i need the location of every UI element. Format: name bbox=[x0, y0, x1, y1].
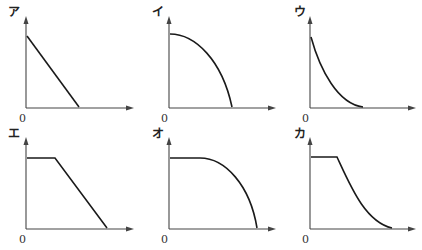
curve-e bbox=[27, 158, 107, 228]
graph-grid: ア 0 イ 0 ウ 0 エ 0 オ bbox=[0, 0, 422, 250]
origin-label-ka: 0 bbox=[302, 233, 309, 246]
x-axis-arrow-icon bbox=[268, 227, 276, 232]
panel-u: ウ 0 bbox=[294, 5, 416, 125]
y-axis-arrow-icon bbox=[167, 137, 172, 145]
x-axis-arrow-icon bbox=[126, 106, 134, 111]
panel-e: エ 0 bbox=[8, 127, 134, 246]
panel-i: イ 0 bbox=[152, 5, 276, 125]
curve-ka bbox=[311, 157, 392, 228]
y-axis-arrow-icon bbox=[167, 16, 172, 24]
y-axis-arrow-icon bbox=[308, 137, 313, 145]
panel-label-a: ア bbox=[8, 5, 20, 19]
y-axis-arrow-icon bbox=[308, 16, 313, 24]
curve-u bbox=[311, 37, 363, 107]
panel-label-o: オ bbox=[152, 127, 164, 141]
y-axis-arrow-icon bbox=[24, 16, 29, 24]
x-axis-arrow-icon bbox=[268, 106, 276, 111]
panel-label-u: ウ bbox=[294, 5, 306, 19]
panel-ka: カ 0 bbox=[294, 127, 416, 246]
origin-label-a: 0 bbox=[19, 112, 26, 125]
curve-i bbox=[170, 34, 232, 107]
origin-label-u: 0 bbox=[302, 112, 309, 125]
origin-label-e: 0 bbox=[19, 233, 26, 246]
panel-label-ka: カ bbox=[294, 127, 306, 141]
x-axis-arrow-icon bbox=[408, 106, 416, 111]
x-axis-arrow-icon bbox=[408, 227, 416, 232]
x-axis-arrow-icon bbox=[126, 227, 134, 232]
y-axis-arrow-icon bbox=[24, 137, 29, 145]
origin-label-i: 0 bbox=[161, 112, 168, 125]
curve-a bbox=[27, 36, 79, 107]
curve-o bbox=[170, 158, 257, 228]
origin-label-o: 0 bbox=[161, 233, 168, 246]
panel-o: オ 0 bbox=[152, 127, 276, 246]
panel-label-e: エ bbox=[8, 127, 20, 141]
panel-a: ア 0 bbox=[8, 5, 134, 125]
panel-label-i: イ bbox=[152, 5, 164, 19]
